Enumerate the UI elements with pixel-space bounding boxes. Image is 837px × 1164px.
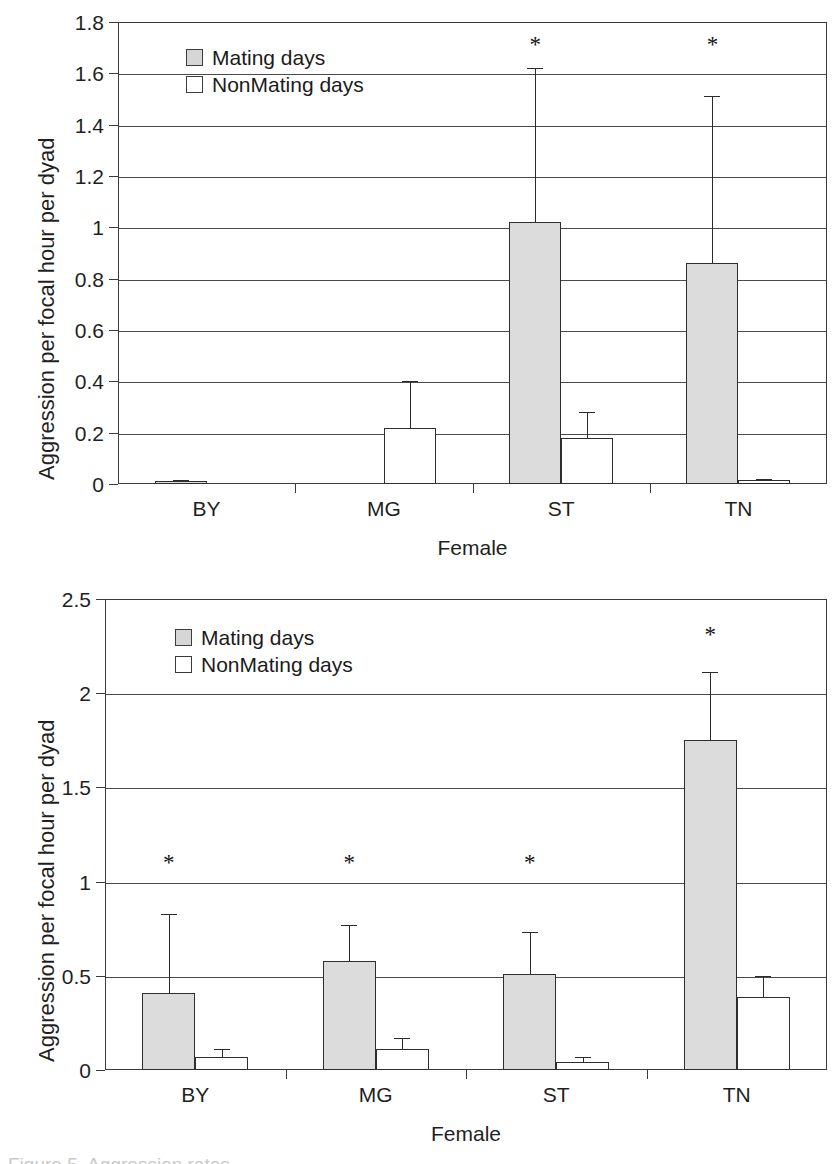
error-bar-stem <box>763 976 764 997</box>
error-bar-cap <box>575 1057 591 1058</box>
bottom-chart-figure: Aggression per focal hour per dyad 00.51… <box>0 0 837 1164</box>
significance-star: * <box>319 851 379 874</box>
x-axis-category-label: MG <box>316 1084 436 1105</box>
y-axis-tick-mark <box>96 599 105 600</box>
significance-star: * <box>139 851 199 874</box>
bottom-chart-x-axis-title: Female <box>105 1122 827 1146</box>
y-axis-tick-label: 2.5 <box>25 589 91 610</box>
significance-star: * <box>680 623 740 646</box>
error-bar-stem <box>402 1038 403 1049</box>
bar-ST-nonmating <box>556 1062 609 1070</box>
gridline <box>106 694 826 695</box>
legend-item: NonMating days <box>175 651 353 678</box>
x-axis-tick-mark <box>647 1070 648 1079</box>
legend-label: NonMating days <box>201 654 353 675</box>
y-axis-tick-label: 2 <box>25 683 91 704</box>
plot-bottom-legend: Mating daysNonMating days <box>175 624 353 678</box>
legend-label: NonMating days <box>212 74 364 95</box>
legend-swatch-nonmating-icon <box>175 656 192 673</box>
error-bar-cap <box>341 925 357 926</box>
y-axis-tick-mark <box>96 1070 105 1071</box>
y-axis-tick-label: 1.5 <box>25 777 91 798</box>
x-axis-category-label: TN <box>677 1084 797 1105</box>
error-bar-stem <box>349 925 350 961</box>
legend-swatch-mating-icon <box>186 49 203 66</box>
plot-top-legend: Mating daysNonMating days <box>186 44 364 98</box>
error-bar-cap <box>755 976 771 977</box>
legend-label: Mating days <box>212 47 325 68</box>
error-bar-stem <box>222 1049 223 1057</box>
error-bar-stem <box>710 672 711 740</box>
error-bar-cap <box>161 914 177 915</box>
y-axis-tick-mark <box>96 882 105 883</box>
y-axis-tick-label: 1 <box>25 872 91 893</box>
bar-ST-mating <box>503 974 556 1070</box>
error-bar-cap <box>702 672 718 673</box>
legend-swatch-mating-icon <box>175 629 192 646</box>
y-axis-tick-label: 0 <box>25 1060 91 1081</box>
legend-label: Mating days <box>201 627 314 648</box>
x-axis-tick-mark <box>466 1070 467 1079</box>
x-axis-category-label: BY <box>135 1084 255 1105</box>
legend-swatch-nonmating-icon <box>186 76 203 93</box>
significance-star: * <box>500 851 560 874</box>
legend-item: NonMating days <box>186 71 364 98</box>
figure-page: Aggression per focal hour per dyad 00.20… <box>0 0 837 1164</box>
bar-BY-mating <box>142 993 195 1070</box>
error-bar-stem <box>169 914 170 993</box>
bar-MG-mating <box>323 961 376 1070</box>
figure-caption-fragment: Figure 5. Aggression rates <box>8 1154 608 1164</box>
error-bar-cap <box>522 932 538 933</box>
x-axis-category-label: ST <box>496 1084 616 1105</box>
x-axis-tick-mark <box>286 1070 287 1079</box>
y-axis-tick-mark <box>96 976 105 977</box>
y-axis-tick-mark <box>96 693 105 694</box>
bar-BY-nonmating <box>195 1057 248 1070</box>
legend-item: Mating days <box>175 624 353 651</box>
bar-TN-nonmating <box>737 997 790 1070</box>
error-bar-cap <box>214 1049 230 1050</box>
error-bar-cap <box>394 1038 410 1039</box>
bar-TN-mating <box>684 740 737 1070</box>
y-axis-tick-mark <box>96 787 105 788</box>
error-bar-stem <box>530 932 531 973</box>
legend-item: Mating days <box>186 44 364 71</box>
y-axis-tick-label: 0.5 <box>25 966 91 987</box>
bar-MG-nonmating <box>376 1049 429 1070</box>
